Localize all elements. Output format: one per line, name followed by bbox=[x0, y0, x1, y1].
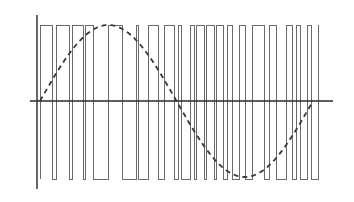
pwm-pulse-train bbox=[40, 25, 318, 179]
pwm-waveform bbox=[40, 25, 318, 179]
pwm-diagram bbox=[0, 0, 354, 202]
